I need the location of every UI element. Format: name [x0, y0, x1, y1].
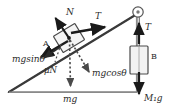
label-block-a: A — [42, 39, 49, 48]
block-b — [130, 46, 148, 74]
label-gravity-perpendicular: mgcosθ — [92, 68, 127, 78]
label-weight-block-b: M₁g — [143, 93, 163, 103]
label-normal-force: N — [65, 7, 75, 17]
diagram-canvas: N T A mgsinθ μN mgcosθ mg T B M₁g — [0, 0, 170, 107]
free-body-diagram-figure: N T A mgsinθ μN mgcosθ mg T B M₁g — [0, 0, 170, 107]
label-weight-block-a: mg — [63, 94, 78, 104]
pulley-axle-icon — [136, 10, 139, 13]
label-block-b: B — [151, 52, 157, 61]
label-friction: μN — [44, 65, 58, 75]
label-tension-vertical: T — [145, 22, 152, 32]
pulley — [133, 7, 143, 17]
label-tension-incline: T — [95, 11, 102, 21]
label-gravity-parallel: mgsinθ — [12, 54, 46, 64]
